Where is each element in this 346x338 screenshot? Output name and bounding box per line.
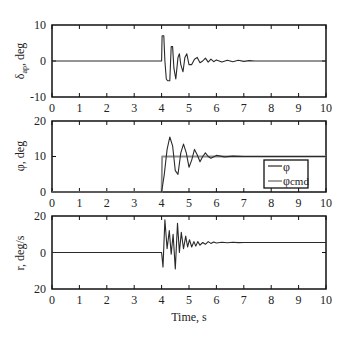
panel-aileron: δap, deg 10 0 -10 012345678910 xyxy=(13,18,332,115)
x-tick-label: 0 xyxy=(49,196,55,210)
y-tick-label: 20 xyxy=(34,209,46,223)
y-axis-label-aileron: δap, deg xyxy=(13,43,29,80)
y-tick-label: 10 xyxy=(34,149,46,163)
x-tick-label: 8 xyxy=(268,293,274,307)
x-tick-label: 6 xyxy=(213,101,219,115)
x-tick-label: 1 xyxy=(76,196,82,210)
x-tick-label: 4 xyxy=(159,293,165,307)
x-tick-label: 7 xyxy=(241,196,247,210)
x-tick-label: 4 xyxy=(159,101,165,115)
y-tick-label: 0 xyxy=(40,246,46,260)
x-tick-label: 10 xyxy=(320,101,332,115)
x-tick-label: 3 xyxy=(131,196,137,210)
panel-yaw-rate: r, deg/s 20 0 20 012345678910 Time, s xyxy=(13,209,332,324)
x-tick-label: 8 xyxy=(268,196,274,210)
x-tick-label: 7 xyxy=(241,101,247,115)
series-line xyxy=(52,36,326,81)
x-tick-labels-yaw: 012345678910 xyxy=(49,293,332,307)
y-axis-label-roll: φ, deg xyxy=(13,141,27,171)
x-tick-label: 2 xyxy=(104,293,110,307)
x-tick-label: 3 xyxy=(131,293,137,307)
y-tick-label: -10 xyxy=(30,90,46,104)
x-tick-label: 0 xyxy=(49,293,55,307)
x-tick-labels-aileron: 012345678910 xyxy=(49,101,332,115)
x-tick-label: 10 xyxy=(320,293,332,307)
x-tick-label: 6 xyxy=(213,293,219,307)
y-tick-label: 10 xyxy=(34,18,46,32)
y-axis-label-yaw: r, deg/s xyxy=(13,235,27,270)
x-tick-label: 9 xyxy=(296,293,302,307)
x-tick-label: 4 xyxy=(159,196,165,210)
y-tick-label: 0 xyxy=(40,54,46,68)
x-tick-label: 3 xyxy=(131,101,137,115)
x-tick-label: 9 xyxy=(296,196,302,210)
x-tick-label: 6 xyxy=(213,196,219,210)
x-tick-label: 1 xyxy=(76,293,82,307)
x-tick-label: 0 xyxy=(49,101,55,115)
x-tick-label: 7 xyxy=(241,293,247,307)
y-tick-label: 20 xyxy=(34,282,46,296)
x-tick-label: 10 xyxy=(320,196,332,210)
x-tick-label: 2 xyxy=(104,101,110,115)
chart-figure: δap, deg 10 0 -10 012345678910 φ, deg 20… xyxy=(0,0,346,338)
x-tick-label: 8 xyxy=(268,101,274,115)
series-line xyxy=(52,220,326,269)
x-tick-label: 1 xyxy=(76,101,82,115)
x-tick-label: 2 xyxy=(104,196,110,210)
x-tick-label: 5 xyxy=(186,293,192,307)
x-axis-label: Time, s xyxy=(171,310,207,324)
x-tick-labels-roll: 012345678910 xyxy=(49,196,332,210)
panel-roll-angle: φ, deg 20 10 0 012345678910 φ φcmd xyxy=(13,114,332,210)
legend-label-phi-cmd: φcmd xyxy=(283,174,309,188)
x-tick-label: 9 xyxy=(296,101,302,115)
legend: φ φcmd xyxy=(264,160,309,188)
y-tick-label: 20 xyxy=(34,114,46,128)
legend-label-phi: φ xyxy=(283,160,290,174)
x-tick-label: 5 xyxy=(186,196,192,210)
x-tick-label: 5 xyxy=(186,101,192,115)
y-tick-label: 0 xyxy=(40,185,46,199)
